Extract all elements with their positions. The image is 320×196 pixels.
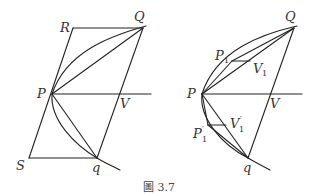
label-V1-prime-mark: ′ [240,114,242,123]
left-figure: R Q P V S q [16,9,151,175]
label-R: R [59,20,70,35]
segment-Qq [97,28,143,158]
chord-P1Q [232,28,294,61]
label-P1-prime-sub: 1 [202,135,207,144]
label-V: V [270,96,281,111]
figure-caption: 圖 3.7 [143,181,175,194]
label-P1-sub: 1 [224,56,229,65]
parabola-diagram: R Q P V S q Q P V q P 1 V 1 P 1 ′ V 1 [0,0,320,196]
segment-Qq [248,28,294,158]
label-P: P [186,86,196,101]
label-q: q [92,160,100,175]
label-V1-prime-sub: 1 [239,125,244,134]
label-Q: Q [285,9,296,24]
label-P1: P [214,48,224,63]
label-Q: Q [134,9,145,24]
label-P1-prime-mark: ′ [202,124,204,133]
label-V1-sub: 1 [262,69,267,78]
label-V: V [120,96,131,111]
label-P1-prime: P [192,126,202,141]
chord-PQ [52,28,143,94]
chord-Pq [52,94,97,158]
chord-PP1 [202,61,232,94]
label-P: P [36,86,46,101]
segment-RS [29,28,73,158]
label-q: q [243,160,251,175]
right-figure: Q P V q P 1 V 1 P 1 ′ V 1 ′ [186,9,302,175]
label-S: S [16,158,25,173]
